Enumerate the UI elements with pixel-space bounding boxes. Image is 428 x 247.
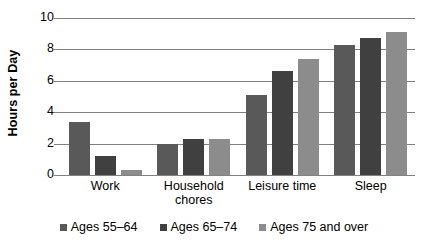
y-tick-label: 0 — [24, 168, 54, 181]
y-tick-label: 6 — [24, 74, 54, 87]
chart-legend: Ages 55–64Ages 65–74Ages 75 and over — [0, 220, 428, 234]
x-tick-label: Work — [61, 179, 150, 193]
bar — [69, 122, 90, 175]
x-tick-label-line: Household — [150, 179, 239, 193]
bar — [386, 32, 407, 175]
x-axis-tick-labels: WorkHouseholdchoresLeisure timeSleep — [61, 179, 415, 215]
x-tick-label-line: Sleep — [327, 179, 416, 193]
bar-group — [238, 18, 327, 175]
x-tick-label: Sleep — [327, 179, 416, 193]
y-tick-label: 8 — [24, 42, 54, 55]
bar — [272, 71, 293, 175]
x-tick-label: Householdchores — [150, 179, 239, 208]
bar-group — [61, 18, 150, 175]
y-tick-mark — [54, 144, 61, 145]
gridline — [61, 175, 415, 176]
y-tick-mark — [54, 49, 61, 50]
x-tick-label-line: chores — [150, 193, 239, 207]
bars-layer — [61, 18, 415, 175]
y-tick-mark — [54, 81, 61, 82]
y-tick-label: 10 — [24, 11, 54, 24]
y-tick-mark — [54, 18, 61, 19]
legend-label: Ages 55–64 — [71, 220, 138, 234]
bar — [360, 38, 381, 175]
legend-item: Ages 65–74 — [160, 220, 238, 234]
y-tick-label: 2 — [24, 137, 54, 150]
bar-chart: Hours per Day 0246810 WorkHouseholdchore… — [0, 0, 428, 247]
y-tick-mark — [54, 112, 61, 113]
legend-label: Ages 75 and over — [270, 220, 368, 234]
bar-group — [327, 18, 416, 175]
legend-swatch-icon — [160, 224, 167, 231]
y-tick-mark — [54, 175, 61, 176]
x-tick-label-line: Work — [61, 179, 150, 193]
y-axis-title-label: Hours per Day — [6, 49, 20, 136]
bar — [246, 95, 267, 175]
legend-swatch-icon — [60, 224, 67, 231]
bar-group — [150, 18, 239, 175]
x-tick-label-line: Leisure time — [238, 179, 327, 193]
bar — [209, 139, 230, 175]
y-tick-label: 4 — [24, 105, 54, 118]
bar — [334, 45, 355, 175]
x-tick-label: Leisure time — [238, 179, 327, 193]
bar — [183, 139, 204, 175]
bar — [121, 170, 142, 175]
legend-item: Ages 55–64 — [60, 220, 138, 234]
bar — [298, 59, 319, 175]
bar — [95, 156, 116, 175]
legend-swatch-icon — [259, 224, 266, 231]
y-axis-title: Hours per Day — [0, 0, 26, 185]
legend-label: Ages 65–74 — [171, 220, 238, 234]
bar — [157, 144, 178, 175]
legend-item: Ages 75 and over — [259, 220, 368, 234]
